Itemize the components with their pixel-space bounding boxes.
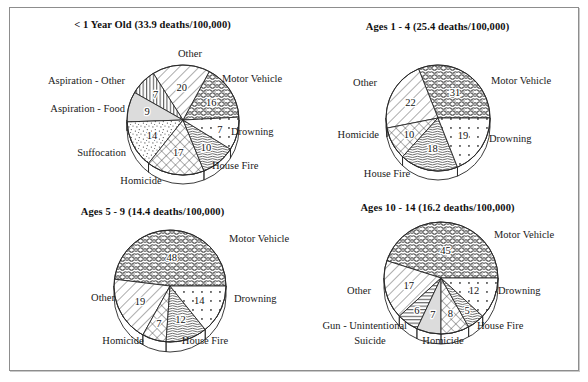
slice-value-gun-unintentional: 6 [414, 305, 419, 316]
slice-label-drowning: Drowning [498, 286, 541, 297]
slice-label-house-fire: House Fire [477, 321, 523, 332]
slice-label-house-fire: House Fire [165, 336, 245, 347]
slice-label-other: Other [10, 293, 115, 304]
slice-label-other: Other [295, 286, 371, 297]
slice-value-motor-vehicle: 31 [450, 87, 461, 98]
slice-value-homicide: 8 [448, 308, 453, 319]
slice-label-homicide: Homicide [106, 176, 176, 187]
slice-label-homicide: Homicide [83, 336, 163, 347]
slice-value-aspiration-other: 7 [153, 89, 158, 100]
slice-label-drowning: Drowning [234, 294, 277, 305]
slice-value-drowning: 14 [194, 295, 205, 306]
slice-value-homicide: 17 [173, 147, 184, 158]
pie-chart-panel-ages-1-4: Ages 1 - 4 (25.4 deaths/100,000) 3131222… [295, 8, 580, 190]
slice-label-homicide: Homicide [404, 336, 482, 347]
slice-value-drowning: 7 [217, 124, 222, 135]
slice-value-motor-vehicle: 45 [440, 245, 451, 256]
slice-label-suffocation: Suffocation [10, 148, 126, 159]
slice-label-gun-unintentional: Gun - Unintentional [295, 321, 407, 332]
slice-value-motor-vehicle: 16 [206, 97, 217, 108]
slice-value-house-fire: 12 [175, 314, 186, 325]
slice-label-house-fire: House Fire [212, 161, 258, 172]
slice-value-other: 22 [405, 97, 416, 108]
slice-label-other: Other [160, 49, 220, 60]
slice-label-suicide: Suicide [333, 336, 407, 347]
slice-label-motor-vehicle: Motor Vehicle [494, 230, 554, 241]
slice-label-other: Other [295, 78, 377, 89]
slice-value-drowning: 12 [469, 285, 480, 296]
pie-chart-panel-under-1: < 1 Year Old (33.9 deaths/100,000) 16162… [10, 8, 295, 190]
slice-label-drowning: Drowning [231, 127, 274, 138]
slice-value-house-fire: 10 [201, 142, 212, 153]
slice-label-aspiration-food: Aspiration - Food [10, 104, 125, 115]
figure-frame: < 1 Year Old (33.9 deaths/100,000) 16162… [9, 7, 579, 371]
slice-value-house-fire: 5 [464, 305, 469, 316]
slice-value-house-fire: 18 [427, 143, 438, 154]
slice-label-homicide: Homicide [295, 130, 379, 141]
slice-value-other: 19 [135, 296, 146, 307]
slice-label-motor-vehicle: Motor Vehicle [491, 76, 551, 87]
slice-value-aspiration-food: 9 [144, 106, 149, 117]
pie-slices: 484819197712121414 [114, 230, 226, 352]
slice-label-motor-vehicle: Motor Vehicle [229, 234, 289, 245]
pie-chart-panel-ages-10-14: Ages 10 - 14 (16.2 deaths/100,000) 45451… [295, 190, 580, 372]
slice-value-other: 20 [177, 82, 188, 93]
slice-label-aspiration-other: Aspiration - Other [10, 76, 125, 87]
slice-label-motor-vehicle: Motor Vehicle [222, 74, 282, 85]
pie-chart-panel-ages-5-9: Ages 5 - 9 (14.4 deaths/100,000) 4848191… [10, 190, 295, 372]
slice-value-homicide: 7 [156, 318, 161, 329]
slice-label-house-fire: House Fire [347, 169, 427, 180]
slice-value-other: 17 [403, 280, 414, 291]
slice-value-homicide: 10 [404, 129, 415, 140]
slice-value-motor-vehicle: 48 [167, 252, 178, 263]
pie-chart-ages-1-4: 31312222101018181919 [295, 8, 580, 190]
slice-value-suicide: 7 [430, 309, 435, 320]
slice-value-drowning: 19 [458, 130, 469, 141]
pie-slices: 31312222101018181919 [386, 65, 490, 180]
slice-value-suffocation: 14 [147, 130, 158, 141]
slice-label-drowning: Drowning [489, 134, 532, 145]
